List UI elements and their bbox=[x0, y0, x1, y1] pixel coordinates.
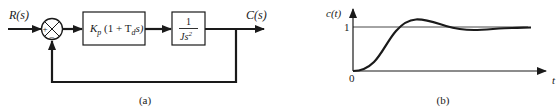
controller-expr-2: s) bbox=[135, 22, 143, 35]
controller-expr-1: (1 + T bbox=[101, 22, 131, 35]
y-axis-label: c(t) bbox=[326, 7, 342, 20]
minus-sign: − bbox=[49, 32, 54, 42]
origin-label: 0 bbox=[349, 72, 355, 84]
reference-level-label: 1 bbox=[344, 21, 350, 33]
step-response-plot: c(t) 1 0 t (b) bbox=[326, 7, 556, 107]
x-axis-label: t bbox=[552, 74, 556, 86]
caption-a: (a) bbox=[139, 94, 152, 107]
diagram-canvas: R(s) + − Kp (1 + Tds) 1 Js2 bbox=[0, 0, 559, 112]
plus-sign: + bbox=[43, 24, 48, 34]
caption-b: (b) bbox=[437, 94, 450, 107]
plant-denominator-exponent: 2 bbox=[188, 30, 192, 38]
output-label: C(s) bbox=[246, 8, 267, 22]
plant-numerator: 1 bbox=[186, 16, 191, 27]
controller-block: Kp (1 + Tds) bbox=[83, 12, 145, 45]
input-label: R(s) bbox=[8, 8, 29, 22]
plant-denominator: Js bbox=[180, 31, 188, 42]
block-diagram: R(s) + − Kp (1 + Tds) 1 Js2 bbox=[8, 8, 267, 107]
plant-block: 1 Js2 bbox=[172, 12, 205, 45]
summing-junction: + − bbox=[42, 19, 63, 42]
